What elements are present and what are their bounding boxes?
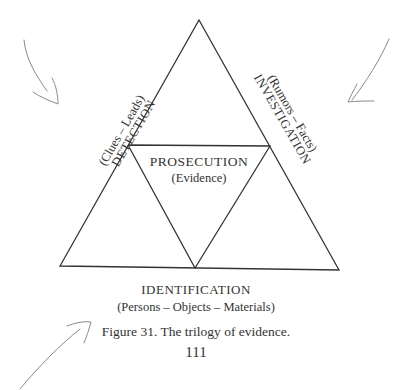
- pencil-arrow-top-left-icon: [24, 40, 58, 104]
- prosecution-label: PROSECUTION: [150, 154, 249, 170]
- pencil-arrow-bottom-left-icon: [20, 322, 91, 389]
- pencil-arrow-top-right-icon: [348, 39, 389, 102]
- figure-caption: Figure 31. The trilogy of evidence.: [102, 324, 290, 340]
- prosecution-sublabel: (Evidence): [172, 171, 227, 186]
- identification-sublabel: (Persons – Objects – Materials): [117, 300, 275, 315]
- page-number: 111: [185, 344, 206, 361]
- identification-label: IDENTIFICATION: [141, 282, 251, 298]
